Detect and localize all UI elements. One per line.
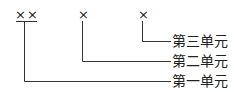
digit-third-unit: × xyxy=(138,8,149,21)
digit-second-unit: × xyxy=(78,8,89,21)
digits-first-unit: ×× xyxy=(15,8,39,21)
label-second-unit: 第二单元 xyxy=(172,53,228,69)
label-third-unit: 第三单元 xyxy=(172,33,228,49)
connector-first-unit xyxy=(25,22,172,82)
connector-third-unit xyxy=(143,21,172,42)
label-first-unit: 第一单元 xyxy=(172,73,228,89)
